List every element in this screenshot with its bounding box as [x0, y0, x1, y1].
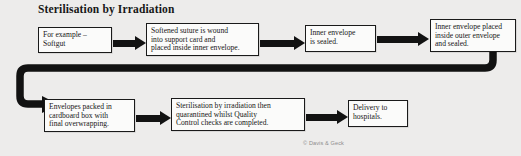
node-line: is sealed. — [310, 38, 372, 47]
copyright-credit: © Davis & Geck — [303, 140, 344, 146]
node-line: hospitals. — [353, 113, 404, 122]
arrow-head-icon — [160, 111, 171, 125]
process-node-7: Delivery to hospitals. — [348, 100, 408, 127]
process-node-4: Inner envelope placed inside outer envel… — [430, 19, 516, 52]
arrow-shaft — [136, 115, 160, 122]
arrow-head-icon — [418, 32, 429, 46]
arrow-head-icon — [294, 36, 305, 50]
page-title: Sterilisation by Irradiation — [38, 3, 174, 15]
process-node-1: For example – Softgut — [38, 27, 112, 53]
node-line: Softgut — [43, 40, 108, 49]
node-line: final overwrapping. — [49, 120, 131, 129]
arrow-shaft — [113, 40, 135, 47]
flowchart-canvas: Sterilisation by Irradiation For example… — [0, 0, 521, 156]
arrow-shaft — [306, 114, 337, 121]
arrow-shaft — [260, 40, 294, 47]
node-line: placed inside inner envelope. — [151, 44, 255, 53]
process-node-3: Inner envelope is sealed. — [305, 25, 376, 52]
node-line: Control checks are completed. — [176, 119, 301, 128]
arrow-shaft — [377, 36, 418, 43]
process-node-2: Softened suture is wound into support ca… — [146, 23, 259, 56]
arrow-head-icon — [337, 110, 348, 124]
process-node-5: Envelopes packed in cardboard box with f… — [44, 99, 135, 132]
node-line: and sealed. — [435, 40, 512, 49]
process-node-6: Sterilisation by irradiation then quaran… — [171, 98, 305, 131]
arrow-head-icon — [135, 36, 146, 50]
